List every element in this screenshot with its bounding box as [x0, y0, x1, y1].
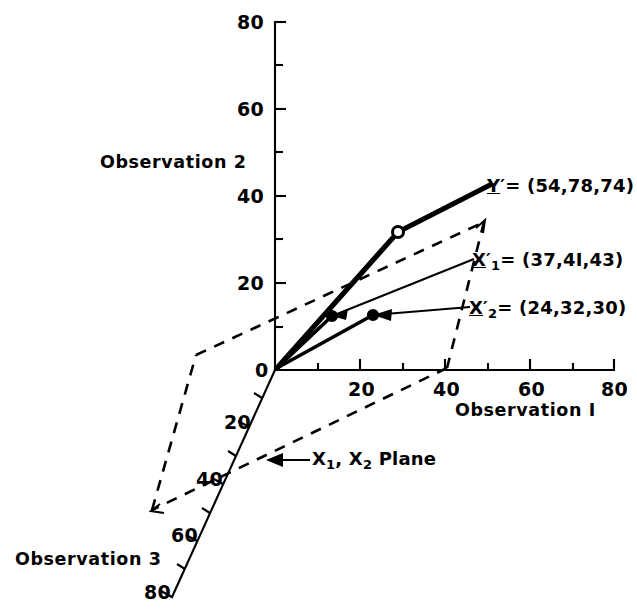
- arrowhead-plane: [266, 453, 283, 467]
- tick-label-obs2-40: 40: [237, 185, 264, 207]
- plane-label-arrow: [266, 453, 310, 467]
- origin-label: 0: [255, 359, 269, 381]
- y-vector-name: Y: [487, 175, 500, 196]
- tick-label-obs2-20: 20: [237, 272, 264, 294]
- figure-canvas: Observation 2 80 60 40 20 0 20 40 60 80 …: [0, 0, 637, 614]
- annotation-x2-vector: X′2= (24,32,30): [469, 297, 626, 321]
- marker-x1: [327, 311, 337, 321]
- tick-label-obs3-80: 80: [144, 581, 171, 603]
- annotation-y-vector: Y′= (54,78,74): [487, 175, 634, 196]
- y-label-leader: [452, 187, 485, 205]
- axis-title-observation-2: Observation 2: [100, 152, 246, 172]
- tick-label-obs3-60: 60: [171, 524, 198, 546]
- tick-label-obs1-80: 80: [601, 378, 628, 400]
- tick-label-obs1-20: 20: [348, 378, 375, 400]
- tick-label-obs3-20: 20: [224, 411, 251, 433]
- tick-label-obs2-80: 80: [237, 11, 264, 33]
- plane-label-comma: , X: [335, 448, 363, 469]
- tick-label-obs1-40: 40: [433, 378, 460, 400]
- marker-x2: [368, 310, 378, 320]
- x1-vector-equals: =: [500, 249, 515, 270]
- tick-label-obs3-40: 40: [196, 468, 223, 490]
- x2-vector-name: X: [469, 297, 483, 318]
- annotation-plane-label: X1, X2 Plane: [312, 448, 436, 472]
- marker-y: [393, 227, 404, 238]
- x1-vector-name: X: [472, 249, 486, 270]
- tick-label-obs1-60: 60: [518, 378, 545, 400]
- observation-1-axis: [275, 359, 614, 370]
- vector-y: [277, 185, 490, 368]
- plane-label-sub1: 1: [326, 457, 335, 472]
- tick-label-obs2-60: 60: [237, 98, 264, 120]
- x1-vector-value: (37,4I,43): [522, 249, 623, 270]
- x2-vector-subscript: 2: [488, 306, 497, 321]
- plane-label-suffix: Plane: [372, 448, 436, 469]
- y-vector-value: (54,78,74): [527, 175, 634, 196]
- plane-label-prefix: X: [312, 448, 326, 469]
- plane-label-sub2: 2: [363, 457, 372, 472]
- x1-vector-subscript: 1: [491, 258, 500, 273]
- annotation-x1-vector: X′1= (37,4I,43): [472, 249, 624, 273]
- axis-title-observation-1: Observation I: [455, 400, 596, 420]
- y-vector-equals: =: [505, 175, 520, 196]
- x2-vector-value: (24,32,30): [519, 297, 626, 318]
- axis-title-observation-3: Observation 3: [15, 549, 161, 569]
- x2-vector-equals: =: [497, 297, 512, 318]
